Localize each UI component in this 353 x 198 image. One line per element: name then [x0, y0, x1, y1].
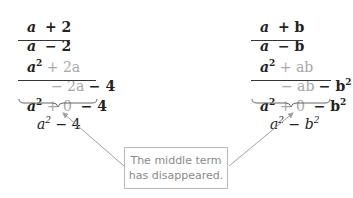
- arrow-left: [63, 113, 124, 166]
- annotation-line-2: has disappeared.: [125, 168, 227, 183]
- annotation-box: The middle term has disappeared.: [124, 147, 228, 189]
- annotation-line-1: The middle term: [125, 153, 227, 168]
- arrow-right: [229, 113, 293, 166]
